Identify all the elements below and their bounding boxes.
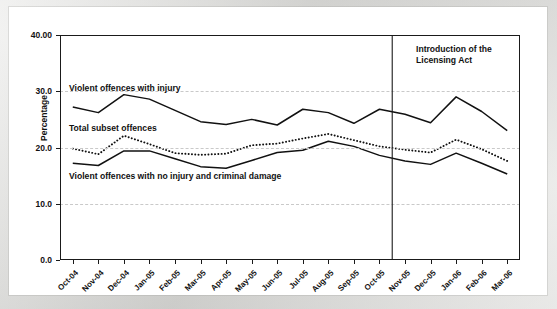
x-tick-mark (303, 260, 304, 264)
series-label-violent-with-injury: Violent offences with injury (69, 83, 181, 93)
figure-root: Percentage 0.010.020.030.040.00 Oct-04No… (0, 0, 557, 309)
x-tick-mark (226, 260, 227, 264)
x-tick-mark (149, 260, 150, 264)
x-tick-mark (252, 260, 253, 264)
y-tick-label: 10.0 (9, 199, 52, 209)
x-tick-mark (405, 260, 406, 264)
annotation-line-1: Introduction of the (416, 44, 492, 55)
y-tick-mark (56, 260, 60, 261)
x-tick-mark (431, 260, 432, 264)
x-tick-mark (277, 260, 278, 264)
x-tick-mark (507, 260, 508, 264)
series-label-violent-no-injury: Violent offences with no injury and crim… (69, 171, 281, 181)
x-tick-mark (328, 260, 329, 264)
x-tick-mark (379, 260, 380, 264)
annotation-line-layer (60, 35, 520, 260)
x-tick-mark (456, 260, 457, 264)
chart-panel: Percentage 0.010.020.030.040.00 Oct-04No… (9, 7, 547, 295)
x-tick-mark (482, 260, 483, 264)
x-tick-mark (201, 260, 202, 264)
plot-area (60, 35, 520, 260)
y-tick-label: 40.00 (9, 30, 52, 40)
y-tick-label: 30.0 (9, 86, 52, 96)
y-tick-label: 20.0 (9, 143, 52, 153)
x-tick-mark (354, 260, 355, 264)
x-tick-mark (124, 260, 125, 264)
x-tick-mark (73, 260, 74, 264)
licensing-act-annotation: Introduction of the Licensing Act (416, 44, 492, 67)
x-tick-mark (175, 260, 176, 264)
x-tick-mark (98, 260, 99, 264)
y-axis-title: Percentage (39, 95, 49, 141)
y-tick-label: 0.0 (9, 255, 52, 265)
series-label-total-subset: Total subset offences (69, 123, 157, 133)
annotation-line-2: Licensing Act (416, 55, 492, 66)
